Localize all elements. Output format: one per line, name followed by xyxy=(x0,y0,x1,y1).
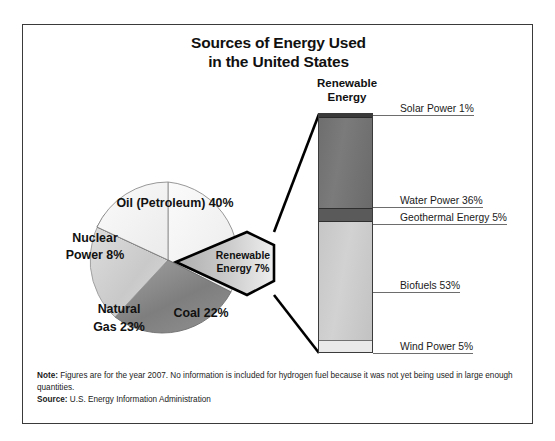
bar-label-wind-power: Wind Power 5% xyxy=(400,341,473,354)
bar-chart-heading: Renewable Energy xyxy=(291,77,403,104)
bar-label-solar-power: Solar Power 1% xyxy=(400,103,474,116)
footnote-source-label: Source: xyxy=(37,395,67,404)
footnote-source: Source: U.S. Energy Information Administ… xyxy=(37,394,520,406)
pie-label-natural-gas-line1: Natural xyxy=(98,302,141,316)
pie-label-nuclear-line1: Nuclear xyxy=(72,231,118,245)
pie-label-renewable-line1: Renewable xyxy=(216,250,271,261)
pie-label-nuclear-line2: Power 8% xyxy=(66,248,125,262)
bar-segment-wind-power xyxy=(319,340,372,353)
pie-label-oil: Oil (Petroleum) 40% xyxy=(116,196,233,210)
bar-heading-line-1: Renewable xyxy=(317,77,377,89)
bar-label-water-power: Water Power 36% xyxy=(400,195,483,208)
pie-label-renewable-line2: Energy 7% xyxy=(216,263,269,274)
leader-line-biofuels xyxy=(373,292,400,293)
leader-line-water xyxy=(373,207,400,208)
bar-label-biofuels: Biofuels 53% xyxy=(400,280,460,293)
footnote-note-label: Note: xyxy=(37,371,58,380)
leader-line-geothermal xyxy=(373,224,400,225)
footnote: Note: Figures are for the year 2007. No … xyxy=(37,370,520,406)
renewable-stacked-bar xyxy=(318,113,373,353)
leader-line-wind xyxy=(373,353,400,354)
bar-segment-water-power xyxy=(319,118,372,208)
bar-segment-geothermal-energy xyxy=(319,208,372,222)
leader-line-solar xyxy=(373,115,400,116)
bar-heading-line-2: Energy xyxy=(328,91,367,103)
figure-frame: Sources of Energy Used in the United Sta… xyxy=(22,24,533,424)
bar-label-geothermal-energy: Geothermal Energy 5% xyxy=(400,212,507,225)
footnote-note: Note: Figures are for the year 2007. No … xyxy=(37,370,520,394)
footnote-source-text: U.S. Energy Information Administration xyxy=(67,395,210,404)
pie-chart: Oil (Petroleum) 40% Coal 22% Natural Gas… xyxy=(47,135,297,365)
page-title: Sources of Energy Used in the United Sta… xyxy=(23,33,534,71)
pie-label-natural-gas-line2: Gas 23% xyxy=(93,320,145,334)
pie-chart-svg: Oil (Petroleum) 40% Coal 22% Natural Gas… xyxy=(47,135,297,365)
title-line-2: in the United States xyxy=(23,52,534,71)
title-line-1: Sources of Energy Used xyxy=(191,34,366,51)
bar-segment-biofuels xyxy=(319,222,372,340)
pie-label-coal: Coal 22% xyxy=(173,306,228,320)
footnote-note-text: Figures are for the year 2007. No inform… xyxy=(37,371,513,392)
